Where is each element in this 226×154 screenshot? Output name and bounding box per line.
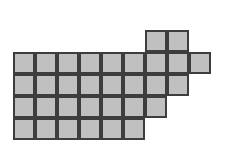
grid-cell — [35, 96, 57, 118]
grid-cell — [13, 118, 35, 140]
grid-cell — [57, 118, 79, 140]
grid-cell — [101, 74, 123, 96]
grid-cell — [79, 96, 101, 118]
grid-cell — [13, 96, 35, 118]
grid-cell — [57, 52, 79, 74]
grid-cell — [35, 74, 57, 96]
grid-cell — [145, 96, 167, 118]
grid-cell — [35, 118, 57, 140]
grid-cell — [79, 74, 101, 96]
grid-cell — [189, 52, 211, 74]
grid-cell — [123, 74, 145, 96]
figure-canvas — [0, 0, 226, 154]
grid-cell — [79, 52, 101, 74]
grid-cell — [13, 74, 35, 96]
grid-cell — [79, 118, 101, 140]
grid-cell — [35, 52, 57, 74]
grid-cell — [167, 30, 189, 52]
grid-cell — [145, 52, 167, 74]
grid-cell — [123, 96, 145, 118]
grid-cell — [167, 74, 189, 96]
grid-cell — [101, 118, 123, 140]
grid-cell — [145, 74, 167, 96]
grid-cell — [167, 52, 189, 74]
grid-cell — [101, 96, 123, 118]
grid-cell — [123, 118, 145, 140]
grid-cell — [145, 30, 167, 52]
grid-cell — [13, 52, 35, 74]
grid-cell — [101, 52, 123, 74]
grid-cell — [57, 96, 79, 118]
grid-cell — [123, 52, 145, 74]
grid-cell — [57, 74, 79, 96]
